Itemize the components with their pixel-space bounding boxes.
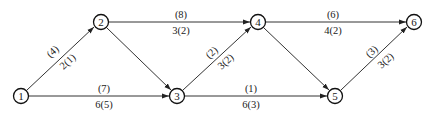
network-diagram: (4) 2(1) (7) 6(5) (8) 3(2) (2) 3(2) (1) … (0, 0, 433, 118)
node-4-label: 4 (255, 16, 261, 28)
edge-4-6-top-label: (6) (327, 9, 340, 21)
edge-1-2-bottom-label: 2(1) (57, 51, 78, 72)
edge-4-6-bottom-label: 4(2) (324, 25, 342, 37)
edge-1-3-bottom-label: 6(5) (95, 99, 113, 111)
diagram-canvas: (4) 2(1) (7) 6(5) (8) 3(2) (2) 3(2) (1) … (0, 0, 433, 118)
edge-5-6 (341, 27, 407, 90)
edge-2-4-top-label: (8) (175, 9, 188, 21)
edge-3-4-bottom-label: 3(2) (215, 51, 236, 72)
node-3: 3 (170, 89, 185, 104)
node-1: 1 (14, 89, 29, 104)
node-5: 5 (328, 89, 343, 104)
edge-4-5 (264, 28, 329, 90)
node-1-label: 1 (18, 90, 24, 102)
node-6: 6 (407, 15, 422, 30)
edge-3-4-top-label: (2) (203, 44, 221, 61)
node-6-label: 6 (411, 16, 417, 28)
edge-3-5-top-label: (1) (245, 83, 258, 95)
edge-5-6-top-label: (3) (363, 43, 381, 60)
edge-2-3 (107, 28, 171, 90)
node-5-label: 5 (332, 90, 338, 102)
node-2-label: 2 (98, 16, 104, 28)
node-2: 2 (94, 15, 109, 30)
edge-1-3-top-label: (7) (98, 83, 111, 95)
node-3-label: 3 (174, 90, 180, 102)
edge-2-4-bottom-label: 3(2) (172, 25, 190, 37)
node-4: 4 (251, 15, 266, 30)
edge-3-5-bottom-label: 6(3) (242, 99, 260, 111)
edge-1-2 (27, 27, 94, 90)
edge-3-4 (183, 27, 251, 90)
edge-5-6-bottom-label: 3(2) (375, 50, 396, 71)
edge-1-2-top-label: (4) (44, 43, 62, 60)
